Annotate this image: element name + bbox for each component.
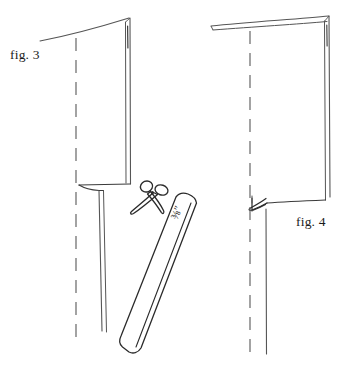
fig3-lower-edge-right xyxy=(104,191,107,333)
measuring-strip-inner-edge xyxy=(136,203,191,347)
fig4-top-edge-inner xyxy=(213,22,327,31)
fig4-top-edge-left-cap xyxy=(211,26,213,30)
fig3-cut-edge xyxy=(79,184,130,185)
fig4-right-edge-inner xyxy=(325,21,326,200)
fig4-lower-edge xyxy=(266,209,267,354)
fig3-right-edge-inner xyxy=(126,22,127,183)
measuring-strip-body xyxy=(120,193,197,353)
fig4-right-edge-outer xyxy=(329,16,330,197)
fig-4-label: fig. 4 xyxy=(296,214,326,230)
fig4-top-edge-outer xyxy=(211,16,329,26)
fig3-top-edge xyxy=(40,18,129,41)
fig3-notch-flick xyxy=(79,185,99,191)
fig3-lower-edge-left xyxy=(99,191,102,332)
scissors-handle-right xyxy=(154,183,170,197)
diagram-svg: ⅜″ xyxy=(0,0,360,378)
figure-3-group: ⅜″ xyxy=(40,18,197,353)
figure-4-group xyxy=(211,16,330,355)
measuring-strip xyxy=(120,193,197,353)
scissors-pivot xyxy=(151,191,154,194)
fig4-hem-bottom-edge xyxy=(267,200,326,203)
fig-3-label: fig. 3 xyxy=(10,47,40,63)
scissors-icon xyxy=(131,179,170,214)
fig3-right-edge-outer xyxy=(130,18,131,184)
illustration-root: ⅜″ xyxy=(0,0,360,378)
